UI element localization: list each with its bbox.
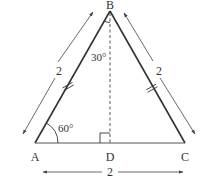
triangle-diagram: 2 2 2 60° 30° B A D C <box>0 0 208 186</box>
vertex-label-b: B <box>106 0 114 12</box>
length-label-bc: 2 <box>156 64 162 78</box>
angle-arc-b <box>104 21 110 23</box>
length-label-ab: 2 <box>56 64 62 78</box>
vertex-label-c: C <box>181 150 189 164</box>
angle-label-b: 30° <box>91 51 106 63</box>
angle-arc-a <box>47 123 59 143</box>
length-label-ac: 2 <box>107 165 113 179</box>
right-angle-marker <box>100 133 110 143</box>
angle-label-a: 60° <box>58 122 73 134</box>
side-bc <box>110 11 185 143</box>
vertex-label-d: D <box>106 150 115 164</box>
vertex-label-a: A <box>31 150 40 164</box>
